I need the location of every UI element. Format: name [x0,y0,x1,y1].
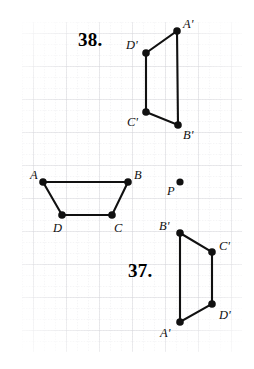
polygon-edges [180,233,212,322]
vertex-C-prime [142,108,150,116]
polygon-edges [146,31,178,125]
center-point-P-group [176,178,183,185]
label-B-prime-37: B' [159,220,169,233]
label-B-prime-38: B' [183,129,193,142]
label-D: D [53,222,62,235]
label-C-prime-37: C' [219,240,230,253]
label-C-prime-38: C' [127,116,138,129]
problem-number-38: 38. [78,30,102,49]
shape-preimage-trapezoid-ABCD [39,178,132,219]
point-P-dot [176,178,183,185]
vertex-A [39,178,47,186]
label-A-prime-38: A' [183,18,193,31]
label-P: P [167,185,175,198]
polygon-edges [43,182,128,215]
vertex-D-prime [208,300,216,308]
vertex-B-prime [174,121,182,129]
label-B: B [134,169,142,182]
vertex-A-prime [173,27,181,35]
vertex-B [124,178,132,186]
problem-number-37: 37. [128,261,152,280]
vertex-C-prime [208,248,216,256]
label-A: A [30,169,38,182]
vertex-B-prime [176,229,184,237]
shape-image-quadrilateral-38 [142,27,182,129]
label-A-prime-37: A' [160,327,170,340]
shape-image-quadrilateral-37 [176,229,216,326]
label-C: C [114,222,122,235]
geometry-figure-layer [0,0,254,369]
vertex-D-prime [142,49,150,57]
label-D-prime-38: D' [126,39,138,52]
vertex-C [108,211,116,219]
vertex-A-prime [176,318,184,326]
vertex-D [58,211,66,219]
worksheet-figure: 38. 37. A' B' C' D' A B C D B' C' D' A' … [0,0,254,369]
label-D-prime-37: D' [219,309,231,322]
